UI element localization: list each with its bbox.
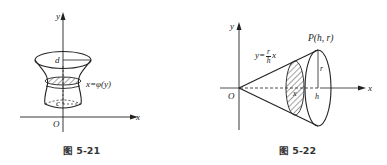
- figure-5-21: y x O d c x=φ(y) 图 5-21: [0, 0, 180, 165]
- y-axis-label: y: [56, 12, 60, 21]
- top-level-label: d: [55, 56, 60, 65]
- radius-label: r: [320, 65, 323, 73]
- figure-caption: 图 5-21: [63, 143, 100, 157]
- line-eq-suffix: x: [272, 50, 276, 60]
- figure-5-22: y x O P(h, r) y=rhx r h x 图 5-22: [180, 0, 387, 165]
- y-axis-label: y: [230, 22, 234, 31]
- line-eq-denominator: h: [267, 57, 271, 65]
- origin-label: O: [53, 120, 60, 129]
- x-axis-label: x: [136, 113, 140, 122]
- origin-label: O: [228, 92, 235, 101]
- figure-caption: 图 5-22: [279, 143, 316, 157]
- bottom-level-label: c: [56, 99, 60, 108]
- point-p-label: P(h, r): [308, 34, 333, 44]
- cone-of-revolution-x-axis: [180, 0, 387, 165]
- line-eq-prefix: y=: [255, 50, 265, 60]
- line-equation: y=rhx: [255, 48, 276, 64]
- line-eq-fraction: rh: [266, 48, 271, 64]
- x-axis-label: x: [368, 84, 372, 93]
- curve-equation-label: x=φ(y): [86, 80, 111, 89]
- section-x-label: x: [293, 90, 297, 98]
- height-label: h: [315, 93, 319, 101]
